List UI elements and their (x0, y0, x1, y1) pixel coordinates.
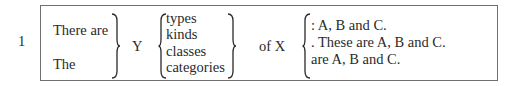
ending-are: are A, B and C. (311, 51, 400, 68)
option-there-are: There are (53, 22, 108, 39)
noun-types: types (166, 10, 197, 27)
symbol-y: Y (132, 38, 142, 55)
left-brace-icon (302, 13, 311, 79)
ending-colon: : A, B and C. (311, 17, 387, 34)
connector-of-x: of X (259, 38, 285, 55)
right-brace-icon (111, 13, 121, 79)
right-brace-icon (227, 13, 237, 79)
noun-classes: classes (166, 43, 206, 60)
option-the: The (53, 56, 76, 73)
example-number: 1 (18, 33, 25, 50)
noun-categories: categories (166, 59, 225, 76)
noun-kinds: kinds (166, 26, 197, 43)
ending-these-are: . These are A, B and C. (311, 34, 446, 51)
